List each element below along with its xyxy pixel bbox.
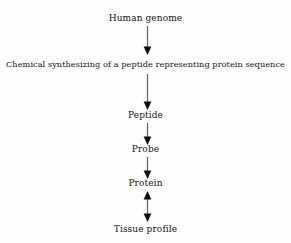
flow-node-protein: Protein [0,178,291,189]
flow-node-chemical-synthesizing: Chemical synthesizing of a peptide repre… [0,59,291,70]
flow-node-tissue-profile: Tissue profile [0,224,291,235]
flow-arrow-down-genome-to-synthesis [141,26,154,55]
flow-arrow-down-probe-to-protein [141,157,154,179]
flow-node-peptide: Peptide [0,110,291,121]
flowchart-canvas: Human genome Chemical synthesizing of a … [0,0,291,243]
flow-arrow-down-synthesis-to-peptide [141,74,154,110]
flow-arrow-down-peptide-to-probe [141,123,154,145]
flow-arrow-bidirectional-protein-to-tissue-profile [141,191,154,222]
flow-node-human-genome: Human genome [0,13,291,24]
flow-node-probe: Probe [0,144,291,155]
